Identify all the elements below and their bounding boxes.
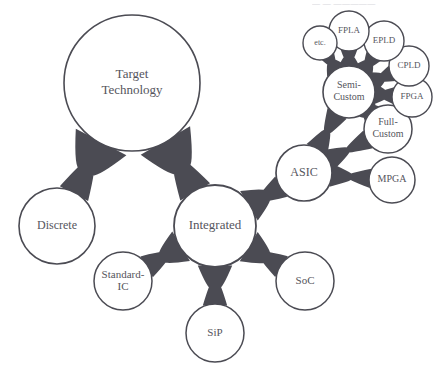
node-circle-epld[interactable] — [364, 21, 404, 61]
node-circle-asic[interactable] — [276, 145, 332, 201]
node-soc[interactable]: SoC — [276, 252, 334, 310]
clipped-header-text: — — ————— — [312, 0, 442, 7]
node-integrated[interactable]: Integrated — [174, 185, 256, 267]
node-epld[interactable]: EPLD — [364, 21, 404, 61]
node-mpga[interactable]: MPGA — [369, 157, 415, 203]
node-standard-ic[interactable]: Standard-IC — [94, 252, 152, 310]
node-etc[interactable]: etc. — [303, 26, 337, 60]
node-circle-soc[interactable] — [276, 252, 334, 310]
node-circle-mpga[interactable] — [369, 157, 415, 203]
node-sip[interactable]: SiP — [186, 304, 244, 362]
node-semi-custom[interactable]: Semi-Custom — [323, 66, 375, 118]
node-circle-integrated[interactable] — [174, 185, 256, 267]
node-circle-semi-custom[interactable] — [323, 66, 375, 118]
node-circle-target[interactable] — [64, 15, 200, 151]
node-asic[interactable]: ASIC — [276, 145, 332, 201]
taxonomy-graph: TargetTechnologyDiscreteIntegratedStanda… — [0, 0, 445, 376]
node-discrete[interactable]: Discrete — [19, 188, 95, 264]
node-circle-etc[interactable] — [303, 26, 337, 60]
node-circle-standard-ic[interactable] — [94, 252, 152, 310]
node-circle-discrete[interactable] — [19, 188, 95, 264]
diagram-canvas: — — ————— TargetTechnologyDiscreteIntegr… — [0, 0, 445, 376]
edge-integrated-sip — [198, 266, 232, 306]
node-circle-sip[interactable] — [186, 304, 244, 362]
node-target[interactable]: TargetTechnology — [64, 15, 200, 151]
